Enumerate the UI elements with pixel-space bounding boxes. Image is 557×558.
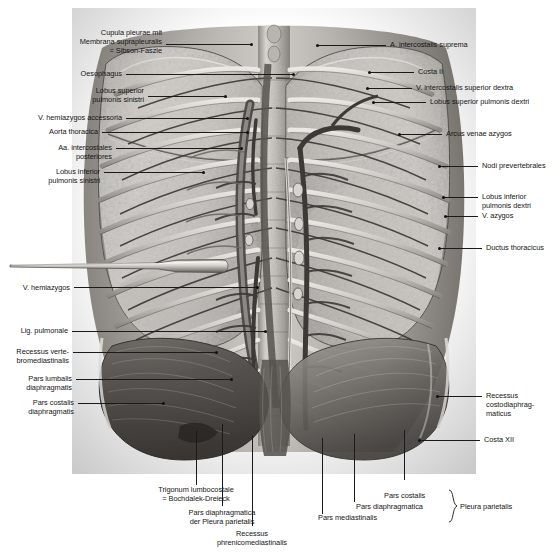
anatomical-plate: Cupula pleurae mit Membrana suprapleural… <box>0 0 557 558</box>
leader-dot-pars-lumbalis <box>230 378 233 381</box>
label-lobus-superior-pulmonis-sinistri: Lobus superior pulmonis sinistri <box>0 86 144 104</box>
label-costa-ii: Costa II <box>418 67 488 76</box>
leader-dot-nodi-prevert <box>438 165 441 168</box>
leader-dot-rec-vertebro <box>215 351 218 354</box>
leader-dot-arcus-azygos <box>398 133 401 136</box>
label-pars-diaphragmatica-pleurae: Pars diaphragmatica der Pleura parietali… <box>144 508 300 526</box>
label-ductus-thoracicus: Ductus thoracicus <box>486 243 557 252</box>
label-costa-xii: Costa XII <box>484 435 544 444</box>
label-pars-diaphragmatica: Pars diaphragmatica <box>356 502 460 511</box>
label-pars-mediastinalis: Pars mediastinalis <box>318 513 418 522</box>
label-cupula-pleurae: Cupula pleurae mit Membrana suprapleural… <box>0 28 162 56</box>
label-lobus-inferior-pulmonis-dextri: Lobus inferior pulmonis dextri <box>482 192 557 210</box>
leader-dot-rec-costodiaph <box>436 395 439 398</box>
leader-dot-pars-cost-diaph <box>162 402 165 405</box>
leader-dot-a-interc-sup <box>316 44 319 47</box>
label-a-intercostalis-suprema: A. intercostalis suprema <box>390 40 550 49</box>
label-aorta-thoracica: Aorta thoracica <box>0 127 98 136</box>
leader-dot-hemiazygos-acc <box>246 117 249 120</box>
label-recessus-costodiaphragmaticus: Recessus costodiaphrag- maticus <box>486 391 556 419</box>
label-v-hemiazygos: V. hemiazygos <box>0 283 70 292</box>
leader-dot-lobus-sup-dex <box>372 101 375 104</box>
label-lobus-inferior-pulmonis-sinistri: Lobus inferior pulmonis sinistri <box>0 167 100 185</box>
surgical-probe <box>8 258 232 274</box>
label-arcus-venae-azygos: Arcus venae azygos <box>446 129 556 138</box>
leader-dot-hemiazygos <box>256 286 259 289</box>
leader-dot-oesophagus <box>292 73 295 76</box>
anatomy-svg <box>72 8 476 474</box>
label-v-intercostalis-superior-dextra: V. intercostalis superior dextra <box>416 83 557 92</box>
leader-dot-ductus-thor <box>438 247 441 250</box>
pleura-parietalis-brace <box>448 489 458 523</box>
label-aa-intercostales-posteriores: Aa. intercostales posteriores <box>0 143 112 161</box>
label-recessus-phrenicomediastinalis: Recessus phrenicomediastinalis <box>188 529 316 547</box>
label-v-azygos: V. azygos <box>482 211 542 220</box>
leader-dot-v-azygos <box>444 215 447 218</box>
label-pars-lumbalis-diaphragmatis: Pars lumbalis diaphragmatis <box>0 374 72 392</box>
leader-dot-costa-ii <box>368 71 371 74</box>
anatomy-illustration <box>72 8 476 474</box>
leader-dot-aorta <box>246 131 249 134</box>
leader-dot-lobus-inf-sin <box>202 171 205 174</box>
label-pars-costalis-diaphragmatis: Pars costalis diaphragmatis <box>0 398 74 416</box>
label-v-hemiazygos-accessoria: V. hemiazygos accessoria <box>0 113 122 122</box>
label-recessus-vertebromediastinalis: Recessus verte- bromediastinalis <box>0 347 69 365</box>
leader-dot-cupula <box>250 43 253 46</box>
leader-dot-lobus-sup-sin <box>224 95 227 98</box>
label-trigonum-lumbocostale: Trigonum lumbocostale = Bochdalek-Dreiec… <box>112 485 280 503</box>
leader-dot-v-interc-dex <box>366 87 369 90</box>
label-lig-pulmonale: Lig. pulmonale <box>0 326 68 335</box>
leader-dot-costa-xii <box>418 439 421 442</box>
label-oesophagus: Oesophagus <box>0 69 122 78</box>
label-pleura-parietalis: Pleura parietalis <box>460 502 556 511</box>
leader-dot-lobus-inf-dex <box>442 196 445 199</box>
leader-dot-aa-interc <box>240 147 243 150</box>
leader-dot-lig-pulmonale <box>264 330 267 333</box>
label-nodi-prevertebrales: Nodi prevertebrales <box>482 161 557 170</box>
label-lobus-superior-pulmonis-dextri: Lobus superior pulmonis dextri <box>430 97 557 106</box>
